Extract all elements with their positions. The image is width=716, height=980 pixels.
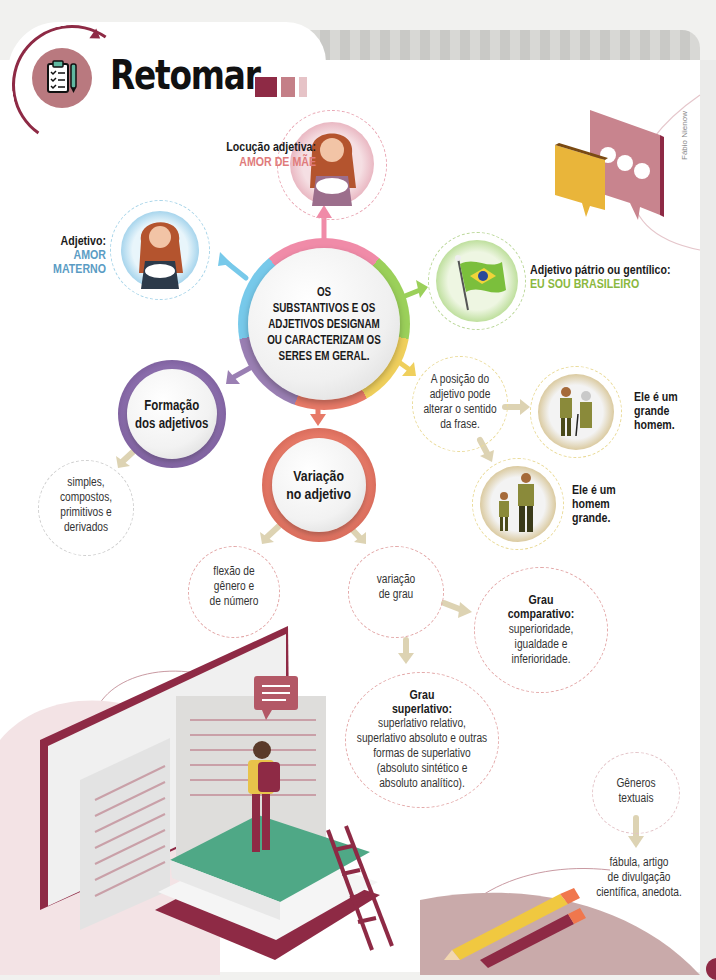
comparativo-text: superioridade, igualdade e inferioridade…: [484, 622, 598, 667]
books-student-illustration: [0, 620, 430, 980]
patrio-example: EU SOU BRASILEIRO: [530, 277, 700, 291]
central-hub-inner: OS SUBSTANTIVOS E OS ADJETIVOS DESIGNAM …: [248, 248, 400, 400]
formacao-node: Formação dos adjetivos: [118, 360, 226, 468]
formacao-title: Formação dos adjetivos: [135, 396, 208, 432]
variacao-node: Variação no adjetivo: [262, 428, 376, 542]
generos-detail: fábula, artigo de divulgação científica,…: [592, 855, 686, 900]
adjetivo-label: Adjetivo:: [33, 234, 106, 248]
grande-homem-photo: [538, 374, 614, 450]
brazil-flag-photo: [436, 240, 518, 322]
page: Retomar Fábio Nienow: [0, 0, 716, 980]
central-hub: OS SUBSTANTIVOS E OS ADJETIVOS DESIGNAM …: [238, 238, 410, 410]
locucao-label: Locução adjetiva:: [209, 140, 316, 154]
grau-text: variação de grau: [354, 572, 439, 602]
formacao-detail: simples, compostos, primitivos e derivad…: [44, 475, 129, 535]
central-statement: OS SUBSTANTIVOS E OS ADJETIVOS DESIGNAM …: [263, 284, 386, 364]
adjetivo-example: AMOR MATERNO: [33, 248, 106, 276]
comparativo-title: Grau comparativo:: [484, 593, 598, 621]
example-grande-homem: Ele é um grande homem.: [634, 390, 702, 432]
generos-title: Gêneros textuais: [597, 776, 675, 806]
variacao-title: Variação no adjetivo: [287, 467, 352, 503]
flexao-text: flexão de gênero e de número: [193, 564, 275, 609]
example-homem-grande: Ele é um homem grande.: [572, 483, 640, 525]
patrio-label: Adjetivo pátrio ou gentílico:: [530, 263, 700, 277]
pencils-illustration: [440, 888, 590, 968]
locucao-example: AMOR DE MÃE: [209, 155, 316, 169]
posicao-text: A posição do adjetivo pode alterar o sen…: [416, 372, 504, 432]
mother-blue-photo: [121, 211, 199, 289]
homem-grande-photo: [480, 466, 556, 542]
